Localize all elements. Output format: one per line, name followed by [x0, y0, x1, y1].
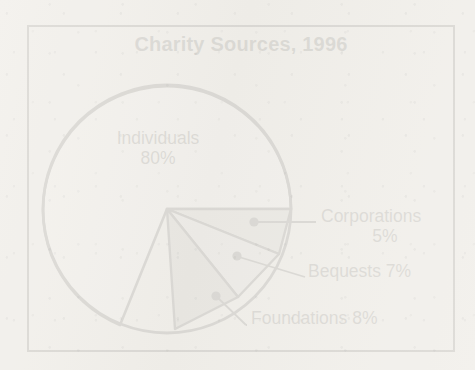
pie-label-individuals-name: Individuals [92, 128, 224, 148]
callout-dot-bequests [232, 251, 241, 260]
pie-label-corporations-value: 5% [321, 226, 449, 246]
pie-label-corporations: Corporations 5% [321, 206, 467, 247]
pie-label-bequests: Bequests 7% [308, 261, 411, 281]
pie-label-foundations: Foundations 8% [251, 308, 377, 328]
pie-label-individuals: Individuals 80% [92, 128, 224, 169]
pie-label-individuals-value: 80% [92, 148, 224, 168]
pie-label-corporations-name: Corporations [321, 206, 421, 226]
chart-title: Charity Sources, 1996 [27, 33, 455, 56]
